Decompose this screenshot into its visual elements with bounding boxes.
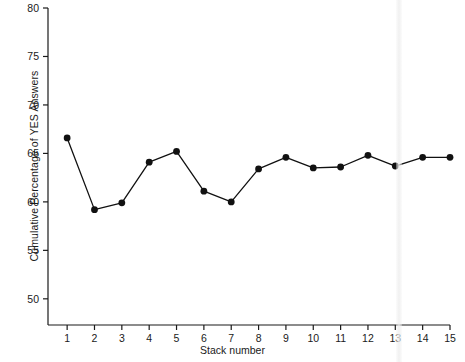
x-axis-title: Stack number <box>0 344 465 356</box>
data-point-marker <box>283 154 290 161</box>
x-tick-label: 3 <box>119 332 125 344</box>
data-point-marker <box>146 159 153 166</box>
data-point-marker <box>447 154 454 161</box>
series-markers <box>64 135 454 214</box>
data-point-marker <box>118 199 125 206</box>
y-tick-label: 80 <box>27 2 39 14</box>
data-point-marker <box>91 206 98 213</box>
data-point-marker <box>173 148 180 155</box>
x-tick-label: 7 <box>228 332 234 344</box>
data-point-marker <box>310 165 317 172</box>
series-line <box>67 138 450 210</box>
x-tick-label: 4 <box>146 332 152 344</box>
x-tick-label: 2 <box>92 332 98 344</box>
x-tick-label: 6 <box>201 332 207 344</box>
y-axis-title: Cumulative Percentage of YES Answers <box>28 36 40 296</box>
chart-figure: 50556065707580 123456789101112131415 Cum… <box>0 0 465 362</box>
data-point-marker <box>419 154 426 161</box>
x-tick-label: 15 <box>444 332 456 344</box>
data-point-marker <box>64 135 71 142</box>
x-tick-label: 1 <box>64 332 70 344</box>
x-tick-label: 9 <box>283 332 289 344</box>
data-point-marker <box>200 188 207 195</box>
x-tick-label: 8 <box>256 332 262 344</box>
x-tick-label: 5 <box>174 332 180 344</box>
data-point-marker <box>228 198 235 205</box>
data-point-marker <box>255 166 262 173</box>
data-series-stack-percentage <box>64 135 454 214</box>
line-chart-canvas: 50556065707580 123456789101112131415 <box>0 0 465 362</box>
x-tick-label: 10 <box>307 332 319 344</box>
axes-group <box>48 8 450 325</box>
x-tick-label: 13 <box>389 332 401 344</box>
data-point-marker <box>392 163 399 170</box>
x-tick-label: 12 <box>362 332 374 344</box>
x-axis-ticks: 123456789101112131415 <box>64 325 456 344</box>
data-point-marker <box>365 152 372 159</box>
data-point-marker <box>337 164 344 171</box>
x-tick-label: 11 <box>335 332 346 344</box>
x-tick-label: 14 <box>417 332 429 344</box>
